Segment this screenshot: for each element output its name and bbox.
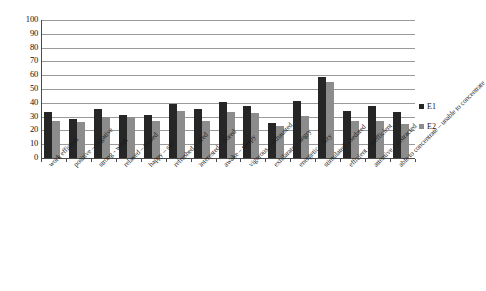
bar-e1	[393, 112, 401, 158]
y-tick-label-100: 100	[4, 15, 38, 24]
bar-e1	[144, 115, 152, 158]
bar-e1	[169, 104, 177, 159]
bar-e1	[343, 111, 351, 158]
x-tick-mark	[265, 159, 266, 162]
bar-e1	[268, 123, 276, 158]
x-tick-mark	[365, 159, 366, 162]
y-tick-label-40: 40	[4, 98, 38, 107]
x-tick-mark	[315, 159, 316, 162]
bar-e2	[127, 117, 135, 158]
bar-group	[141, 20, 166, 158]
x-tick-mark	[240, 159, 241, 162]
bar-group	[216, 20, 241, 158]
x-tick-mark	[415, 159, 416, 162]
legend-swatch-icon-e2	[419, 124, 424, 129]
bar-group	[191, 20, 216, 158]
x-tick-mark	[290, 159, 291, 162]
bar-group	[265, 20, 290, 158]
bar-group	[166, 20, 191, 158]
bar-group	[66, 20, 91, 158]
bar-e1	[194, 109, 202, 158]
bar-e1	[293, 101, 301, 158]
y-tick-label-80: 80	[4, 43, 38, 52]
y-tick-label-10: 10	[4, 139, 38, 148]
bar-group	[315, 20, 340, 158]
legend-swatch-icon-e1	[419, 104, 424, 109]
bar-e2	[52, 121, 60, 158]
bar-e1	[318, 77, 326, 158]
bar-group	[390, 20, 415, 158]
bar-e2	[351, 121, 359, 158]
bar-e2	[202, 121, 210, 158]
bars-layer	[41, 20, 415, 158]
bar-e2	[77, 122, 85, 158]
x-tick-mark	[390, 159, 391, 162]
bar-e1	[243, 106, 251, 158]
x-tick-mark	[166, 159, 167, 162]
x-tick-mark	[116, 159, 117, 162]
bar-e2	[251, 113, 259, 158]
bar-e1	[69, 119, 77, 158]
y-tick-label-60: 60	[4, 70, 38, 79]
bar-e2	[401, 124, 409, 158]
bar-e2	[227, 112, 235, 158]
legend-item-e2[interactable]: E2	[419, 116, 469, 136]
y-tick-label-30: 30	[4, 112, 38, 121]
bar-e1	[94, 109, 102, 158]
legend-label-e1: E1	[427, 102, 436, 111]
bar-group	[116, 20, 141, 158]
x-tick-mark	[66, 159, 67, 162]
y-tick-label-20: 20	[4, 125, 38, 134]
bar-e2	[301, 116, 309, 158]
bar-e2	[177, 111, 185, 158]
bar-group	[41, 20, 66, 158]
bar-group	[340, 20, 365, 158]
y-tick-label-50: 50	[4, 84, 38, 93]
bar-e2	[276, 126, 284, 158]
legend-item-e1[interactable]: E1	[419, 96, 469, 116]
y-tick-label-90: 90	[4, 29, 38, 38]
bar-e2	[376, 121, 384, 158]
bar-e1	[44, 112, 52, 158]
bar-e2	[102, 117, 110, 158]
bar-group	[240, 20, 265, 158]
x-tick-mark	[191, 159, 192, 162]
x-tick-mark	[340, 159, 341, 162]
y-tick-label-70: 70	[4, 56, 38, 65]
legend-label-e2: E2	[427, 122, 436, 131]
x-tick-mark	[41, 159, 42, 162]
bar-e2	[326, 82, 334, 158]
x-tick-mark	[91, 159, 92, 162]
x-tick-mark	[141, 159, 142, 162]
bar-e1	[368, 106, 376, 158]
bar-e1	[119, 115, 127, 158]
y-tick-label-0: 0	[4, 153, 38, 162]
bar-group	[290, 20, 315, 158]
bar-e2	[152, 121, 160, 158]
bar-e1	[219, 102, 227, 158]
x-tick-mark	[216, 159, 217, 162]
legend: E1 E2	[419, 96, 469, 136]
x-axis-tick-marks	[41, 159, 415, 163]
bar-group	[365, 20, 390, 158]
bar-group	[91, 20, 116, 158]
y-axis-tick-labels: 1009080706050403020100	[0, 20, 38, 158]
